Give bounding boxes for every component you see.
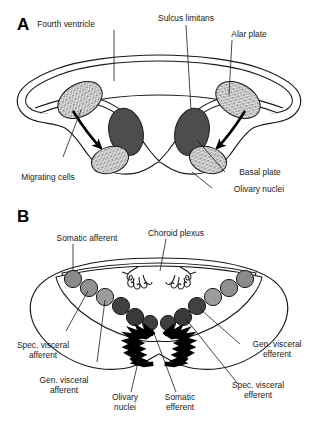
nucleus-spec-visceral-afferent-left	[80, 279, 97, 296]
label-fourth-ventricle: Fourth ventricle	[37, 19, 95, 29]
svg-text:afferent: afferent	[29, 350, 58, 360]
label-choroid-plexus: Choroid plexus	[148, 228, 204, 238]
nucleus-somatic-afferent-left	[64, 270, 81, 287]
svg-text:Spec. visceral: Spec. visceral	[17, 340, 69, 350]
label-sulcus-limitans: Sulcus limitans	[158, 13, 214, 23]
nucleus-somatic-afferent-right	[236, 270, 253, 287]
svg-text:Somatic: Somatic	[165, 392, 195, 402]
panel-a-leader-olivary-nuclei	[192, 172, 212, 188]
svg-text:efferent: efferent	[263, 349, 292, 359]
nucleus-spec-visceral-afferent-right	[220, 279, 237, 296]
svg-text:afferent: afferent	[50, 385, 79, 395]
nucleus-gen-visceral-afferent-right	[204, 288, 221, 305]
panel-b-letter: B	[17, 207, 29, 226]
svg-text:Gen. visceral: Gen. visceral	[40, 375, 89, 385]
nucleus-gen-visceral-efferent-left	[112, 297, 129, 314]
svg-text:efferent: efferent	[166, 402, 195, 412]
panel-b: B	[17, 207, 302, 412]
label-olivary-nuclei-a: Olivary nuclei	[234, 184, 284, 194]
svg-text:efferent: efferent	[244, 390, 273, 400]
svg-text:Spec. visceral: Spec. visceral	[232, 380, 284, 390]
svg-text:nuclei: nuclei	[114, 402, 136, 412]
label-migrating-cells: Migrating cells	[21, 172, 75, 182]
label-gen-visceral-afferent: Gen. visceral afferent	[40, 375, 89, 395]
label-basal-plate: Basal plate	[239, 167, 281, 177]
nucleus-spec-visceral-efferent-left	[126, 308, 143, 325]
svg-text:Olivary: Olivary	[112, 392, 139, 402]
label-olivary-nuclei-b: Olivary nuclei	[112, 392, 139, 412]
panel-a: A Fourth ventricle Sulcus limitans Alar …	[17, 13, 301, 194]
figure-canvas: A Fourth ventricle Sulcus limitans Alar …	[0, 0, 319, 426]
label-alar-plate: Alar plate	[231, 29, 267, 39]
anatomy-figure: A Fourth ventricle Sulcus limitans Alar …	[0, 0, 319, 426]
panel-a-letter: A	[17, 15, 29, 34]
label-somatic-efferent: Somatic efferent	[165, 392, 195, 412]
svg-text:Gen. visceral: Gen. visceral	[253, 339, 302, 349]
label-spec-visceral-efferent: Spec. visceral efferent	[232, 380, 284, 400]
label-somatic-afferent: Somatic afferent	[57, 233, 119, 243]
